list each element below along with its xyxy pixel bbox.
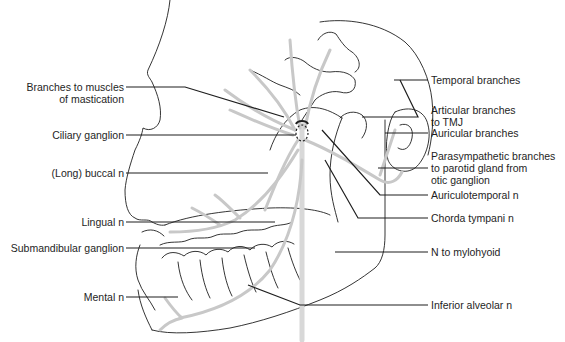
label-line: Auriculotemporal n [431,189,519,201]
lip-contour [142,230,164,236]
label-inferior-alveolar-n: Inferior alveolar n [431,299,512,311]
label-submandibular-ganglion: Submandibular ganglion [11,242,124,254]
label-branches-to-muscles-of-mastication: Branches to muscles of mastication [27,81,124,105]
mental-branches [160,298,182,330]
temporal-branches [250,40,330,130]
ear-inner [398,124,412,149]
label-line: Lingual n [81,216,124,228]
label-line: to parotid gland from [431,162,555,174]
lower-teeth-row [162,241,294,258]
label-line: Auricular branches [431,127,519,139]
temporomandibular-joint [340,112,367,138]
label-auricular-branches: Auricular branches [431,127,519,139]
leader-inferior-alveolar [248,285,428,305]
leader-lines [126,80,428,305]
label-line: (Long) buccal n [52,167,124,179]
label-lingual-n: Lingual n [81,216,124,228]
tooth-roots [178,248,300,300]
label-line: Articular branches [431,104,516,116]
label-line: of mastication [27,93,124,105]
mandibular-nerve-diagram: Branches to muscles of mastication Cilia… [0,0,565,342]
inferior-alveolar-nerve [180,160,302,318]
lingual-nerve [170,150,298,232]
label-line: Mental n [84,291,124,303]
face-profile-outline [125,0,170,225]
label-chorda-tympani-n: Chorda tympani n [431,212,514,224]
auriculotemporal-nerve [305,140,402,182]
leader-articular [362,80,418,117]
label-line: otic ganglion [431,174,555,186]
temporal-region-arc [320,21,433,155]
leader-auriculotemporal [322,130,428,195]
label-parasympathetic-branches: Parasympathetic branches to parotid glan… [431,150,555,186]
label-temporal-branches: Temporal branches [431,74,520,86]
label-line: Inferior alveolar n [431,299,512,311]
label-line: Parasympathetic branches [431,150,555,162]
label-mental-n: Mental n [84,291,124,303]
label-line: Temporal branches [431,74,520,86]
mandible-lower-border [138,290,152,330]
label-auriculotemporal-n: Auriculotemporal n [431,189,519,201]
leader-chorda-tympani [325,160,428,218]
label-line: Submandibular ganglion [11,242,124,254]
label-n-to-mylohyoid: N to mylohyoid [431,246,500,258]
label-ciliary-ganglion: Ciliary ganglion [52,129,124,141]
ramus-anterior [330,118,342,222]
label-line: Ciliary ganglion [52,129,124,141]
label-articular-branches-to-tmj: Articular branches to TMJ [431,104,516,128]
label-long-buccal-n: (Long) buccal n [52,167,124,179]
label-line: N to mylohyoid [431,246,500,258]
label-line: Branches to muscles [27,81,124,93]
lower-lip-outline [136,245,155,310]
mandible-outline [152,120,385,333]
label-line: Chorda tympani n [431,212,514,224]
